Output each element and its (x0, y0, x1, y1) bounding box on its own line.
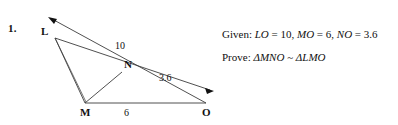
arrowhead-lower-right (205, 88, 214, 94)
given-term-LO-var: LO (255, 28, 269, 40)
vertex-label-O: O (202, 107, 211, 118)
worksheet-page: 1. L M N O 10 3.6 6 Given: LO = 10, MO =… (0, 0, 398, 125)
similarity-symbol: ~ (287, 51, 293, 63)
segment-LO-through-N (55, 38, 210, 90)
prove-triangle-MNO: ΔMNO (253, 51, 284, 63)
segment-MN (85, 72, 122, 103)
given-term-MO-value: = 6, (314, 28, 334, 40)
given-term-NO-value: = 3.6 (352, 28, 377, 40)
vertex-label-N: N (124, 59, 132, 70)
prove-lead: Prove: (222, 51, 251, 63)
prove-statement: Prove: ΔMNO ~ ΔLMO (222, 51, 326, 64)
vertex-label-M: M (80, 107, 90, 118)
measure-label-LO: 10 (115, 41, 125, 51)
measure-label-NO: 3.6 (159, 73, 172, 83)
measure-label-MO: 6 (124, 108, 129, 118)
geometry-figure (0, 0, 398, 125)
prove-triangle-LMO: ΔLMO (296, 51, 326, 63)
given-term-NO-var: NO (337, 28, 352, 40)
vertex-label-L: L (41, 26, 48, 37)
given-term-MO-var: MO (297, 28, 314, 40)
given-lead: Given: (222, 28, 252, 40)
given-term-LO-value: = 10, (269, 28, 294, 40)
arrowhead-upper-left (48, 17, 57, 24)
given-statement: Given: LO = 10, MO = 6, NO = 3.6 (222, 28, 378, 41)
segment-LM-secondary (55, 38, 86, 102)
